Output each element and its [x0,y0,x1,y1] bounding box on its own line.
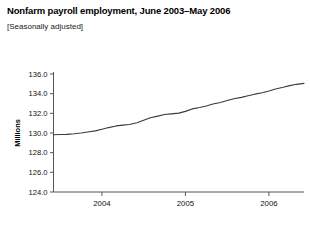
y-tick-label: 128.0 [28,148,47,157]
y-tick-label: 134.0 [28,89,47,98]
y-tick-label: 136.0 [28,70,47,79]
x-tick-label: 2004 [93,199,111,208]
chart-figure: Nonfarm payroll employment, June 2003–Ma… [0,0,310,228]
x-tick-label: 2005 [177,199,195,208]
line-chart-plot: 136.0134.0132.0130.0128.0126.0124.0Milli… [0,0,310,228]
x-tick-label: 2006 [260,199,277,208]
y-axis-title: Millions [13,119,22,147]
y-tick-label: 132.0 [28,109,47,118]
y-tick-label: 126.0 [28,168,47,177]
chart-footnote: ____ _____ _ __ ___ ____ __ _____ ____ _… [7,222,307,228]
data-line-nonfarm-payroll [54,83,305,134]
y-tick-label: 124.0 [28,188,47,197]
y-tick-label: 130.0 [28,129,47,138]
